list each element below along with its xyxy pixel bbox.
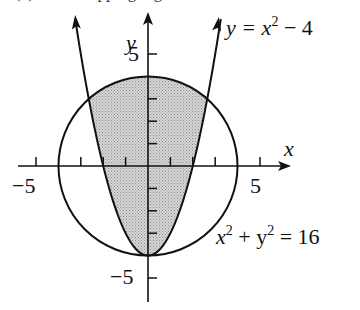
circle-equation-label: x2 + y2 = 16: [215, 223, 320, 249]
eq-part: x: [215, 224, 226, 249]
x-tick-label-neg5: −5: [12, 173, 35, 198]
header-text: (c) ... overlapping region: [15, 0, 184, 2]
x-axis-label: x: [283, 136, 294, 161]
eq-exponent: 2: [226, 223, 233, 238]
x-tick-label-5: 5: [250, 173, 261, 198]
eq-exponent: 2: [271, 14, 278, 29]
cropped-header-text: (c) ... overlapping region: [15, 0, 184, 2]
graph-figure: (c) ... overlapping region x y −5 5 5 −5…: [0, 0, 360, 310]
eq-part: y = x: [224, 15, 272, 40]
eq-part: + y: [233, 224, 267, 249]
y-tick-label-neg5: −5: [110, 264, 133, 289]
eq-part: = 16: [274, 224, 319, 249]
eq-exponent: 2: [267, 223, 274, 238]
parabola-equation-label: y = x2 − 4: [224, 14, 313, 40]
eq-part: − 4: [278, 15, 312, 40]
arrow-up-icon: [212, 16, 223, 31]
y-tick-label-5: 5: [128, 41, 139, 66]
